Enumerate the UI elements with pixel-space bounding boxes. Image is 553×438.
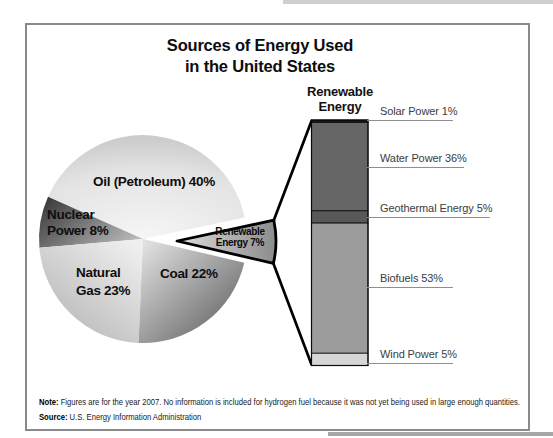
chart-title: Sources of Energy Used in the United Sta… — [25, 35, 495, 76]
bar-segment-wind-power — [312, 353, 369, 365]
bar-segment-biofuels — [312, 223, 369, 353]
bar-segment-water-power — [312, 122, 369, 210]
note-label: Note: — [39, 396, 59, 407]
pie-label-oil: Oil (Petroleum) 40% — [84, 174, 224, 190]
bar-segment-geothermal-energy — [312, 211, 369, 223]
note-text: Figures are for the year 2007. No inform… — [61, 396, 520, 407]
source-label: Source: — [39, 411, 67, 422]
bar-title-line1: Renewable — [290, 84, 390, 99]
bar-label-solar: Solar Power 1% — [367, 105, 453, 121]
pie-label-natural-gas: Natural Gas 23% — [76, 264, 130, 299]
bar-label-water: Water Power 36% — [367, 152, 464, 168]
pie-label-nuclear: Nuclear Power 8% — [47, 207, 108, 239]
pie-label-renewable-wedge: Renewable Energy 7% — [207, 227, 273, 248]
source-text: U.S. Energy Information Administration — [70, 411, 202, 422]
pie-slice-coal — [139, 239, 245, 343]
note-line: Note: Figures are for the year 2007. No … — [39, 395, 530, 410]
bar-label-geothermal: Geothermal Energy 5% — [367, 202, 490, 218]
bar-label-wind: Wind Power 5% — [367, 348, 453, 364]
funnel-line-top — [274, 121, 312, 220]
chart-title-line2: in the United States — [25, 56, 495, 77]
note-block: Note: Figures are for the year 2007. No … — [39, 395, 530, 424]
chart-title-line1: Sources of Energy Used — [25, 35, 495, 56]
funnel-line-bottom — [273, 263, 311, 364]
pie-label-coal: Coal 22% — [160, 266, 218, 282]
bar-label-biofuels: Biofuels 53% — [367, 272, 453, 288]
source-line: Source: U.S. Energy Information Administ… — [39, 410, 530, 425]
